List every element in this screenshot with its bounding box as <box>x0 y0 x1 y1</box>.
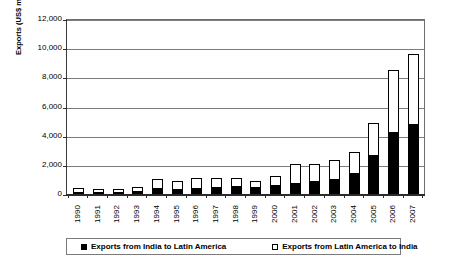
bar-group <box>285 20 305 194</box>
bar-stack <box>388 20 399 194</box>
bar-stack <box>172 20 183 194</box>
bar-segment-latin-america-to-india <box>309 164 320 182</box>
bar-group <box>325 20 345 194</box>
x-axis-label-cell: 2006 <box>384 199 404 231</box>
x-axis-tick <box>245 194 265 198</box>
bar-group <box>246 20 266 194</box>
bar-stack <box>93 20 104 194</box>
bar-stack <box>368 20 379 194</box>
bar-group <box>344 20 364 194</box>
bar-segment-india-to-latin-america <box>408 124 419 194</box>
filled-square-icon <box>81 244 87 250</box>
bar-segment-latin-america-to-india <box>152 179 163 188</box>
x-axis-ticks <box>66 194 425 198</box>
bar-stack <box>152 20 163 194</box>
x-axis-tick-label: 2007 <box>409 205 417 223</box>
bar-stack <box>349 20 360 194</box>
bar-segment-india-to-latin-america <box>368 155 379 194</box>
bar-group <box>403 20 423 194</box>
bar-stack <box>270 20 281 194</box>
x-axis-tick-label: 2001 <box>291 205 299 223</box>
y-axis-tick-label: 6,000 <box>22 103 62 111</box>
legend-label-latin-america-to-india: Exports from Latin America to India <box>282 243 417 251</box>
x-axis-tick-label: 1999 <box>251 205 259 223</box>
bar-group <box>207 20 227 194</box>
y-axis-tick-label: 8,000 <box>22 73 62 81</box>
x-axis-tick <box>384 194 404 198</box>
x-axis-label-cell: 1994 <box>147 199 167 231</box>
bar-segment-latin-america-to-india <box>270 176 281 185</box>
bar-stack <box>290 20 301 194</box>
x-axis-tick-label: 2005 <box>370 205 378 223</box>
bar-segment-latin-america-to-india <box>211 178 222 187</box>
x-axis-label-cell: 1993 <box>127 199 147 231</box>
bar-segment-india-to-latin-america <box>329 179 340 194</box>
bar-segment-india-to-latin-america <box>231 186 242 194</box>
x-axis-tick-label: 1991 <box>94 205 102 223</box>
y-axis-tick-label: 4,000 <box>22 132 62 140</box>
exports-stacked-bar-chart: Exports (US$ million) 02,0004,0006,0008,… <box>0 0 451 268</box>
bar-segment-latin-america-to-india <box>290 164 301 183</box>
x-axis-label-cell: 2005 <box>364 199 384 231</box>
x-axis-tick <box>305 194 325 198</box>
y-axis-tick-label: 0 <box>22 190 62 198</box>
x-axis-label-cell: 2000 <box>265 199 285 231</box>
bar-segment-latin-america-to-india <box>191 178 202 188</box>
x-axis-tick <box>107 194 127 198</box>
bar-stack <box>408 20 419 194</box>
bar-group <box>148 20 168 194</box>
bar-segment-latin-america-to-india <box>329 160 340 179</box>
x-axis-tick <box>226 194 246 198</box>
bar-segment-latin-america-to-india <box>368 123 379 156</box>
x-axis-tick <box>186 194 206 198</box>
x-axis-tick <box>167 194 187 198</box>
bar-segment-latin-america-to-india <box>388 70 399 132</box>
bar-group <box>69 20 89 194</box>
x-axis-tick <box>285 194 305 198</box>
bar-stack <box>211 20 222 194</box>
x-axis-label-cell: 1999 <box>245 199 265 231</box>
bar-group <box>226 20 246 194</box>
x-axis-label-cell: 2003 <box>324 199 344 231</box>
x-axis-tick <box>324 194 344 198</box>
x-axis-label-cell: 2002 <box>305 199 325 231</box>
legend-item-india-to-latin-america: Exports from India to Latin America <box>81 243 226 251</box>
y-axis-tick-label: 10,000 <box>22 44 62 52</box>
x-axis-tick-label: 2004 <box>350 205 358 223</box>
bar-group <box>384 20 404 194</box>
x-axis-label-cell: 1995 <box>167 199 187 231</box>
bar-segment-latin-america-to-india <box>408 54 419 124</box>
bar-group <box>167 20 187 194</box>
x-axis-label-cell: 1996 <box>186 199 206 231</box>
bar-segment-latin-america-to-india <box>231 178 242 186</box>
plot-area <box>66 19 425 194</box>
bar-segment-india-to-latin-america <box>309 181 320 194</box>
chart-legend: Exports from India to Latin America Expo… <box>66 238 401 255</box>
x-axis-tick-label: 2000 <box>271 205 279 223</box>
x-axis-tick <box>147 194 167 198</box>
bar-stack <box>231 20 242 194</box>
bar-group <box>128 20 148 194</box>
x-axis-label-cell: 1998 <box>226 199 246 231</box>
bar-segment-india-to-latin-america <box>290 183 301 194</box>
bar-segment-india-to-latin-america <box>349 173 360 194</box>
bar-group <box>108 20 128 194</box>
x-axis-tick-label: 1992 <box>113 205 121 223</box>
x-axis-tick-label: 1997 <box>212 205 220 223</box>
y-axis-tick-label: 12,000 <box>22 15 62 23</box>
bar-group <box>364 20 384 194</box>
x-axis-label-cell: 2001 <box>285 199 305 231</box>
bar-stack <box>132 20 143 194</box>
x-axis-tick-label: 1994 <box>153 205 161 223</box>
x-axis-tick-label: 2003 <box>330 205 338 223</box>
bar-stack <box>309 20 320 194</box>
bar-segment-india-to-latin-america <box>211 187 222 194</box>
plot-right-border <box>424 19 425 195</box>
bar-segment-latin-america-to-india <box>172 181 183 189</box>
x-axis-tick-label: 1995 <box>172 205 180 223</box>
bar-stack <box>191 20 202 194</box>
x-axis-tick <box>344 194 364 198</box>
legend-item-latin-america-to-india: Exports from Latin America to India <box>272 243 417 251</box>
bar-group <box>89 20 109 194</box>
y-axis-tick-label: 2,000 <box>22 161 62 169</box>
